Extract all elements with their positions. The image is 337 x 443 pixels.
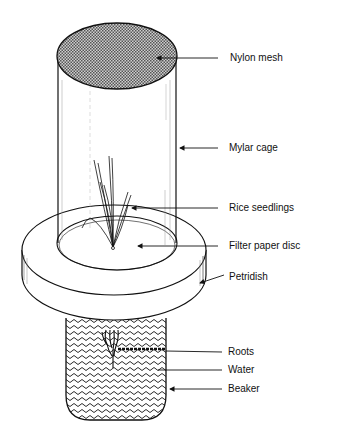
label-mylar-cage: Mylar cage: [229, 142, 278, 154]
nylon-mesh-top: [57, 23, 177, 89]
diagram-drawing: [0, 0, 337, 443]
label-nylon-mesh: Nylon mesh: [230, 52, 283, 64]
filter-paper-disc: [57, 216, 177, 270]
label-water: Water: [228, 364, 254, 376]
label-beaker: Beaker: [228, 383, 260, 395]
label-rice-seedlings: Rice seedlings: [229, 202, 294, 214]
beaker: [60, 315, 172, 425]
label-filter-paper-disc: Filter paper disc: [229, 240, 300, 252]
apparatus-diagram: Nylon mesh Mylar cage Rice seedlings Fil…: [0, 0, 337, 443]
label-petridish: Petridish: [229, 271, 268, 283]
label-roots: Roots: [228, 346, 254, 358]
